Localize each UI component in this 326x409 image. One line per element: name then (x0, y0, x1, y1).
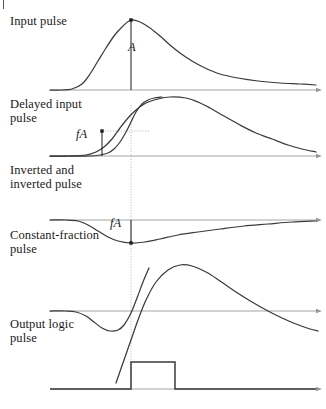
curve-delayed-input-pulse (50, 97, 316, 156)
row-label-constant-fraction-pulse: Constant-fraction pulse (10, 229, 99, 256)
axis-arrowhead-constant-fraction-pulse (316, 309, 322, 313)
timing-diagram-canvas (0, 0, 326, 409)
curve-input-pulse (50, 20, 316, 90)
fraction-label-fa-delayed: fA (76, 127, 87, 142)
axis-arrowhead-output-logic-pulse (316, 387, 322, 391)
axis-arrowhead-delayed-input-pulse (316, 154, 322, 158)
row-label-delayed-input-pulse: Delayed input pulse (10, 98, 82, 125)
amplitude-label-a: A (128, 40, 136, 55)
axis-arrowhead-input-pulse (316, 88, 322, 92)
annotation-cap-fraction-a-constant (129, 241, 132, 244)
row-label-inverted-pulse: Inverted and inverted pulse (10, 164, 82, 191)
cfd-timing-figure: Input pulse Delayed input pulse Inverted… (0, 0, 326, 409)
curves-group (50, 20, 318, 389)
curve-output-logic-pulse (50, 362, 316, 389)
annotation-cap-fraction-a-delayed (100, 129, 103, 132)
axis-arrowhead-inverted-pulse (316, 218, 322, 222)
row-label-output-logic-pulse: Output logic pulse (10, 318, 74, 345)
row-label-input-pulse: Input pulse (10, 15, 67, 29)
curve-constant-fraction-pulse-positive-lobe (116, 265, 318, 383)
guides-group (102, 105, 150, 383)
fraction-label-fa-constant: fA (110, 216, 121, 231)
annotation-cap-amplitude-a (129, 18, 132, 21)
